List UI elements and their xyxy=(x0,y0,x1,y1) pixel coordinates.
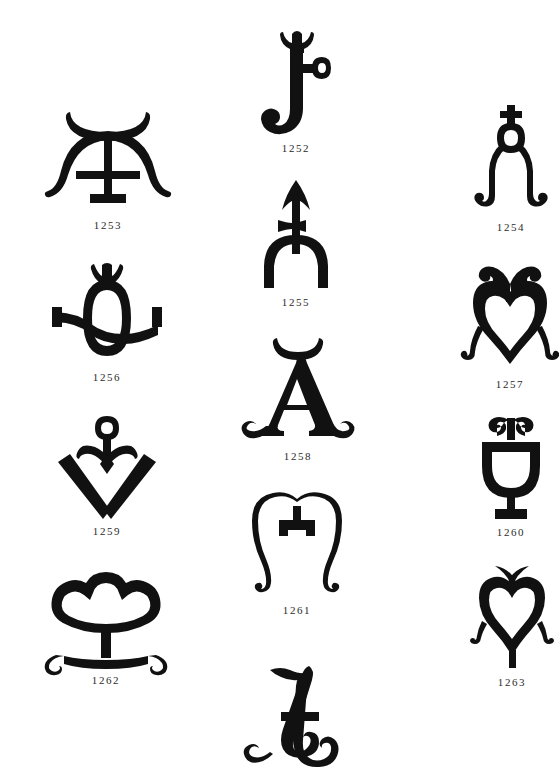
figure-1259: 1259 xyxy=(55,416,159,537)
figure-caption: 1258 xyxy=(284,450,312,462)
trefoil-cloud-on-stand-icon xyxy=(48,570,164,670)
figure-script-a xyxy=(250,664,348,768)
double-curl-m-mark-icon xyxy=(255,496,339,600)
figure-1258: 1258 xyxy=(248,336,348,462)
figure-1254: 1254 xyxy=(472,105,550,233)
figure-1255: 1255 xyxy=(259,180,333,308)
figure-caption: 1261 xyxy=(283,604,311,616)
figure-caption: 1252 xyxy=(282,142,310,154)
figure-1260: 1260 xyxy=(478,416,544,538)
arrow-with-crossbar-and-fork-icon xyxy=(259,180,333,292)
figure-1262: 1262 xyxy=(48,570,164,686)
figure-1253: 1253 xyxy=(52,110,164,231)
figure-caption: 1254 xyxy=(497,221,525,233)
figure-1261: 1261 xyxy=(255,496,339,616)
figure-caption: 1262 xyxy=(92,674,120,686)
roman-a-with-crescent-and-curled-feet-icon xyxy=(248,336,348,446)
figure-caption: 1255 xyxy=(282,296,310,308)
crescent-over-a-mark-icon xyxy=(52,110,164,215)
figure-1256: 1256 xyxy=(46,262,168,383)
figure-caption: 1259 xyxy=(93,525,121,537)
figure-caption: 1260 xyxy=(497,526,525,538)
figure-caption: 1253 xyxy=(94,219,122,231)
plate-page: 1252 1253 xyxy=(0,0,559,775)
heart-with-horns-and-hooks-icon xyxy=(478,562,546,672)
cross-over-ring-with-hooked-legs-icon xyxy=(472,105,550,217)
script-capital-a-mark-icon xyxy=(250,664,348,768)
figure-1263: 1263 xyxy=(478,562,546,688)
crowned-oval-with-crossbar-icon xyxy=(46,262,168,367)
figure-1257: 1257 xyxy=(470,262,550,390)
figure-caption: 1256 xyxy=(93,371,121,383)
heart-with-curled-top-and-feet-icon xyxy=(470,262,550,374)
chalice-with-curled-top-icon xyxy=(478,416,544,522)
ring-headed-figure-over-diamond-icon xyxy=(55,416,159,521)
figure-1252: 1252 xyxy=(256,26,336,154)
hook-with-ring-and-crown-mark-icon xyxy=(256,26,336,138)
figure-caption: 1263 xyxy=(498,676,526,688)
figure-caption: 1257 xyxy=(496,378,524,390)
